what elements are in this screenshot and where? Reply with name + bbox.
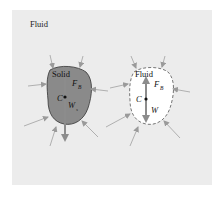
centroid-label-fluid: C	[136, 94, 142, 104]
buoyancy-label-fluid: F	[153, 79, 160, 89]
solid-label: Solid	[52, 69, 71, 79]
buoyancy-diagram: Solid C F B W s Fluid C F B W	[0, 0, 218, 199]
fluid-label: Fluid	[135, 69, 154, 79]
weight-subscript-solid: s	[76, 107, 78, 112]
centroid-label-solid: C	[57, 93, 63, 103]
centroid-dot-fluid	[144, 97, 147, 100]
weight-label-fluid: W	[151, 105, 159, 115]
centroid-dot-solid	[63, 95, 66, 98]
buoyancy-label-solid: F	[71, 78, 78, 88]
weight-label-solid: W	[68, 100, 76, 110]
